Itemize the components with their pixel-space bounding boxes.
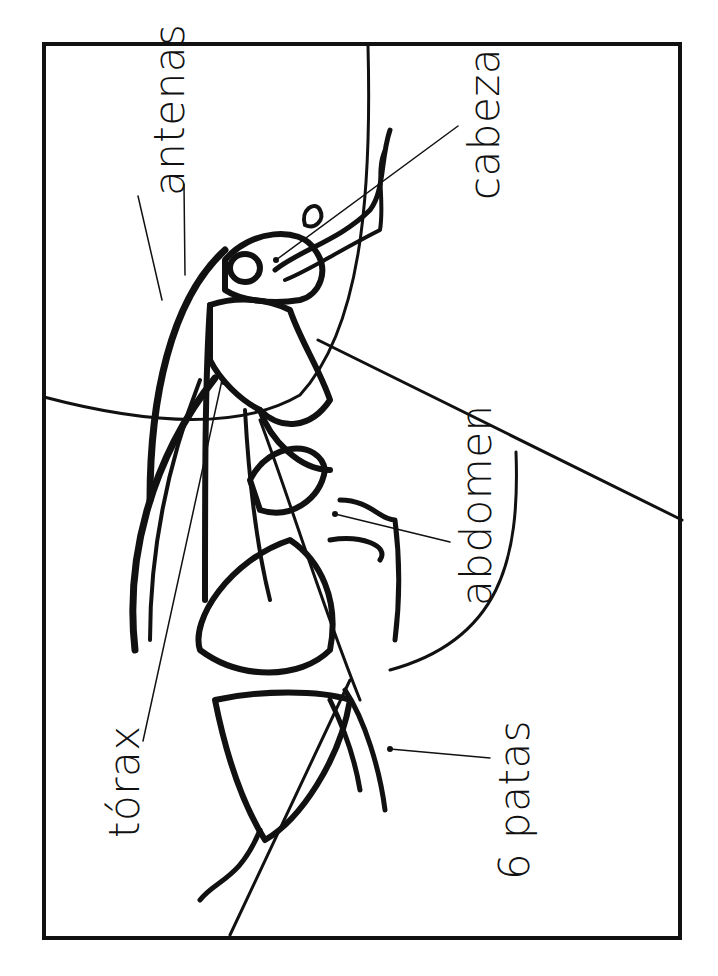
label-torax: tórax [100,725,149,838]
label-abdomen: abdomen [452,404,501,606]
label-cabeza: cabeza [460,48,509,200]
label-antenas: antenas [145,24,194,196]
head [225,130,390,302]
label-patas: 6 patas [490,720,539,880]
